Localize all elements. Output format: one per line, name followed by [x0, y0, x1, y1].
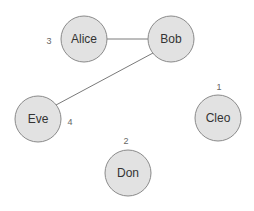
node-eve[interactable]: Eve	[15, 96, 61, 142]
node-eve-badge: 4	[67, 117, 72, 127]
node-cleo-label: Cleo	[206, 111, 231, 125]
node-alice-badge: 3	[46, 36, 51, 46]
node-don-label: Don	[117, 166, 139, 180]
node-cleo-badge: 1	[216, 82, 221, 92]
edge-bob-eve	[56, 53, 153, 105]
node-alice[interactable]: Alice	[61, 16, 107, 62]
graph-diagram: Alice 3 Bob Cleo 1 Don 2 Eve 4	[0, 0, 254, 211]
node-eve-label: Eve	[28, 112, 49, 126]
node-bob-label: Bob	[160, 32, 182, 46]
node-alice-label: Alice	[71, 32, 97, 46]
node-don[interactable]: Don	[105, 150, 151, 196]
node-bob[interactable]: Bob	[148, 16, 194, 62]
node-don-badge: 2	[123, 136, 128, 146]
node-cleo[interactable]: Cleo	[195, 95, 241, 141]
